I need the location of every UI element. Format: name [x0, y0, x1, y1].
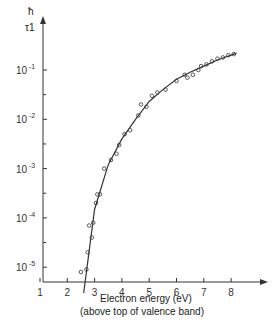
- chart: 1234567810-110-210-310-410-5 ħ τ1 Electr…: [0, 0, 276, 334]
- plot-area: 1234567810-110-210-310-410-5: [0, 0, 276, 334]
- svg-text:-4: -4: [29, 211, 35, 218]
- x-label-2: (above top of valence band): [80, 306, 204, 317]
- svg-text:10: 10: [16, 114, 28, 125]
- svg-text:-5: -5: [29, 260, 35, 267]
- svg-text:10: 10: [16, 65, 28, 76]
- svg-text:1: 1: [37, 287, 43, 298]
- svg-text:10: 10: [16, 164, 28, 175]
- svg-text:10: 10: [16, 262, 28, 273]
- x-label: Electron energy (eV): [100, 293, 192, 304]
- svg-text:-1: -1: [29, 63, 35, 70]
- svg-text:3: 3: [92, 287, 98, 298]
- y-label-num: ħ: [28, 6, 34, 17]
- svg-text:7: 7: [201, 287, 207, 298]
- svg-text:-2: -2: [29, 112, 35, 119]
- y-label-den: τ1: [25, 22, 35, 33]
- svg-text:10: 10: [16, 213, 28, 224]
- svg-text:-3: -3: [29, 162, 35, 169]
- svg-text:2: 2: [65, 287, 71, 298]
- svg-text:8: 8: [228, 287, 234, 298]
